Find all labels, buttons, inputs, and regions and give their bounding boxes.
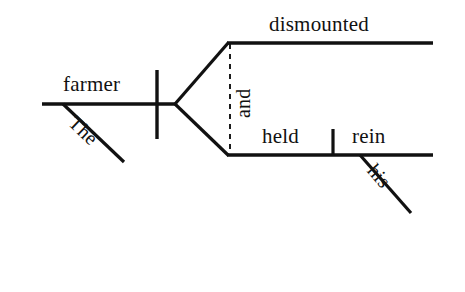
diagram-line-art: [0, 0, 465, 292]
word-predicate-one: dismounted: [269, 14, 369, 35]
word-conjunction: and: [233, 89, 253, 118]
compound-fork-upper-line: [175, 43, 229, 105]
word-direct-object: rein: [352, 126, 385, 147]
word-subject: farmer: [63, 74, 120, 95]
sentence-diagram-canvas: farmer The dismounted and held rein his: [0, 0, 465, 292]
compound-fork-lower-line: [175, 104, 229, 156]
word-predicate-two: held: [262, 126, 299, 147]
